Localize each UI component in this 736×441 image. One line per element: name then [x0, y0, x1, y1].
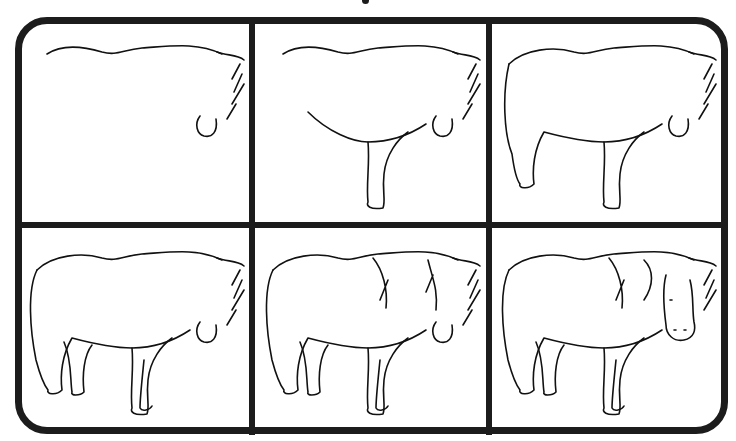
step-5-panel	[258, 230, 486, 428]
step-3-panel	[494, 24, 722, 222]
horse-drawing-step-1	[47, 46, 244, 137]
horse-drawing-step-3	[505, 46, 716, 209]
step-2-panel	[258, 24, 486, 222]
step-6-panel	[494, 230, 722, 428]
horse-drawing-step-6	[502, 252, 716, 415]
top-mark	[362, 0, 369, 4]
horse-drawing-step-4	[30, 252, 244, 415]
divider-horizontal	[15, 222, 728, 228]
horse-drawing-step-2	[283, 46, 480, 209]
horse-drawing-step-5	[266, 252, 480, 415]
step-1-panel	[22, 24, 249, 222]
step-4-panel	[22, 230, 249, 428]
